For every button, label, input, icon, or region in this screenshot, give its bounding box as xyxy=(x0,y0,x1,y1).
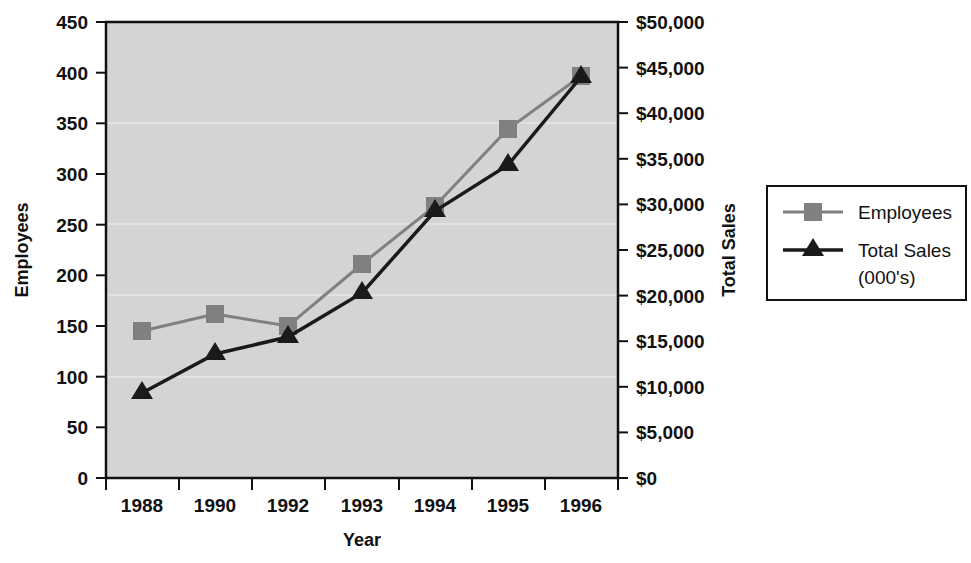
right-tick-25000: $25,000 xyxy=(636,240,705,261)
left-tick-50: 50 xyxy=(67,417,88,438)
right-axis-title: Total Sales xyxy=(719,203,739,297)
x-tick-1992: 1992 xyxy=(267,495,309,516)
chart-svg: 450 400 350 300 250 200 150 100 50 0 Emp… xyxy=(0,0,971,563)
left-tick-400: 400 xyxy=(56,63,88,84)
right-axis-tick-labels: $50,000 $45,000 $40,000 $35,000 $30,000 … xyxy=(636,12,705,489)
right-tick-20000: $20,000 xyxy=(636,286,705,307)
left-tick-0: 0 xyxy=(77,468,88,489)
left-tick-350: 350 xyxy=(56,113,88,134)
employees-point-1993 xyxy=(353,255,371,273)
right-tick-5000: $5,000 xyxy=(636,422,694,443)
dual-axis-line-chart: 450 400 350 300 250 200 150 100 50 0 Emp… xyxy=(0,0,971,563)
x-axis-tick-labels: 1988 1990 1992 1993 1994 1995 1996 xyxy=(121,495,602,516)
right-tick-45000: $45,000 xyxy=(636,58,705,79)
x-tick-1995: 1995 xyxy=(487,495,530,516)
x-axis-ticks xyxy=(106,478,618,490)
legend-label-total-sales: Total Sales xyxy=(858,240,951,261)
right-tick-50000: $50,000 xyxy=(636,12,705,33)
right-tick-15000: $15,000 xyxy=(636,331,705,352)
left-axis-title: Employees xyxy=(12,202,32,297)
x-tick-1994: 1994 xyxy=(414,495,457,516)
x-tick-1993: 1993 xyxy=(341,495,383,516)
left-axis-tick-labels: 450 400 350 300 250 200 150 100 50 0 xyxy=(56,12,88,489)
employees-point-1990 xyxy=(206,305,224,323)
left-tick-100: 100 xyxy=(56,367,88,388)
left-tick-150: 150 xyxy=(56,316,88,337)
right-axis-ticks xyxy=(618,22,628,478)
left-tick-450: 450 xyxy=(56,12,88,33)
employees-point-1988 xyxy=(133,322,151,340)
right-tick-35000: $35,000 xyxy=(636,149,705,170)
legend-label-employees: Employees xyxy=(858,202,952,223)
x-tick-1996: 1996 xyxy=(560,495,602,516)
left-tick-200: 200 xyxy=(56,265,88,286)
left-tick-300: 300 xyxy=(56,164,88,185)
right-tick-30000: $30,000 xyxy=(636,194,705,215)
right-tick-0: $0 xyxy=(636,468,657,489)
right-tick-40000: $40,000 xyxy=(636,103,705,124)
legend-label-total-sales-units: (000's) xyxy=(858,267,915,288)
employees-point-1995 xyxy=(499,120,517,138)
left-tick-250: 250 xyxy=(56,215,88,236)
x-tick-1990: 1990 xyxy=(194,495,236,516)
legend-entry-employees[interactable]: Employees xyxy=(783,202,952,223)
right-tick-10000: $10,000 xyxy=(636,377,705,398)
left-axis-ticks xyxy=(96,22,106,478)
x-tick-1988: 1988 xyxy=(121,495,163,516)
x-axis-title: Year xyxy=(343,530,381,550)
legend: Employees Total Sales (000's) xyxy=(767,186,966,300)
plot-area-background xyxy=(106,22,618,478)
square-marker-icon xyxy=(804,203,822,221)
